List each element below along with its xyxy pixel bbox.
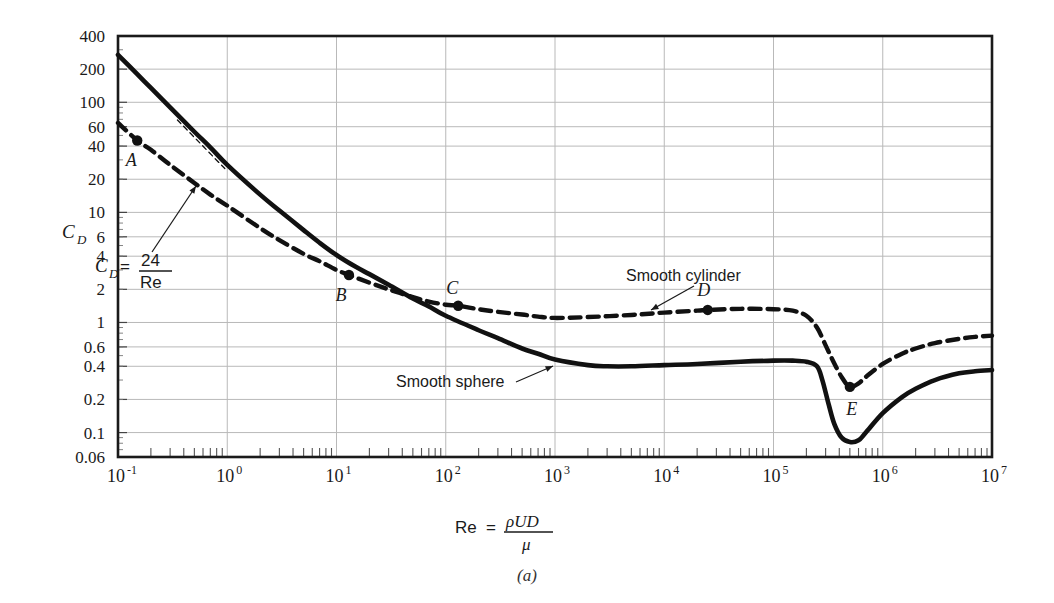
y-tick-label: 40 [88,137,105,156]
marker-point-B [344,270,354,280]
stokes-cd-subscript: D [108,266,119,281]
svg-text:10: 10 [872,466,890,486]
y-tick-label: 2 [97,280,106,299]
marker-label-A: A [125,150,138,170]
y-tick-label: 20 [88,170,105,189]
y-tick-label: 0.06 [75,448,105,467]
y-axis-title-subscript: D [76,232,87,247]
svg-text:3: 3 [564,463,570,477]
svg-text:10: 10 [435,466,453,486]
svg-text:2: 2 [455,463,461,477]
drag-coefficient-chart: 4002001006040201064210.60.40.20.10.06 10… [0,0,1054,603]
stokes-numerator: 24 [141,251,160,270]
marker-label-E: E [845,399,857,419]
svg-text:10: 10 [763,466,781,486]
x-axis-title-equals: = [486,518,496,537]
svg-text:5: 5 [783,463,789,477]
svg-text:0: 0 [236,463,242,477]
figure-caption: (a) [517,566,537,585]
stokes-denominator: Re [140,273,162,292]
stokes-equals: = [120,257,130,276]
svg-text:6: 6 [892,463,898,477]
svg-text:10: 10 [544,466,562,486]
stokes-cd-symbol: C [95,255,108,276]
y-tick-label: 60 [88,118,105,137]
smooth-sphere-label: Smooth sphere [396,373,505,390]
marker-label-B: B [335,285,346,305]
svg-text:4: 4 [673,463,679,477]
y-tick-label: 0.4 [84,357,106,376]
svg-text:1: 1 [346,463,352,477]
y-tick-label: 0.1 [84,424,105,443]
marker-point-D [703,305,713,315]
svg-text:7: 7 [1001,463,1007,477]
marker-point-C [453,301,463,311]
x-axis-title-denominator: μ [521,535,531,554]
y-tick-label: 1 [97,313,106,332]
x-axis-title-re: Re [455,518,477,537]
marker-point-E [845,382,855,392]
y-tick-label: 6 [97,228,106,247]
y-tick-label: 200 [80,60,106,79]
y-tick-label: 400 [80,27,106,46]
svg-text:-1: -1 [127,463,137,477]
svg-text:10: 10 [981,466,999,486]
svg-text:10: 10 [107,466,125,486]
y-axis-title-symbol: C [62,221,75,242]
y-tick-label: 10 [88,203,105,222]
marker-point-A [132,135,142,145]
smooth-cylinder-label: Smooth cylinder [626,267,741,284]
y-tick-label: 100 [80,93,106,112]
drag-coefficient-figure: 4002001006040201064210.60.40.20.10.06 10… [0,0,1054,603]
y-tick-label: 0.6 [84,338,105,357]
svg-text:10: 10 [653,466,671,486]
marker-label-C: C [446,278,459,298]
y-tick-label: 0.2 [84,390,105,409]
svg-text:10: 10 [216,466,234,486]
x-axis-title-numerator: ρUD [505,512,539,531]
svg-text:10: 10 [326,466,344,486]
